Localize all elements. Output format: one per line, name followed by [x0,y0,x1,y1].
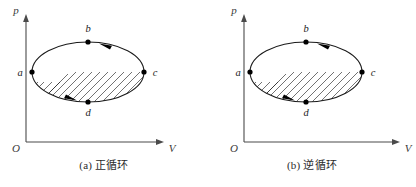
point-marker-c [359,69,364,74]
point-label-b: b [85,23,90,34]
panel-b-diagram: a b c d p V O [208,0,416,158]
point-marker-a [29,69,34,74]
point-label-b: b [303,23,308,34]
panel-reverse-cycle: a b c d p V O (b) 逆循环 [208,0,416,187]
point-marker-d [303,99,308,104]
point-marker-d [85,99,90,104]
point-label-d: d [85,107,91,118]
x-axis-label: V [405,142,413,154]
panel-a-caption: (a) 正循环 [0,156,208,172]
panel-a-diagram: a b c d p V O [0,0,208,158]
point-marker-c [141,69,146,74]
y-axis-label: p [230,4,237,16]
panel-forward-cycle: a b c d p V O (a) 正循环 [0,0,208,187]
figure-root: a b c d p V O (a) 正循环 [0,0,416,187]
cycle-ellipse-a [32,42,144,102]
cycle-ellipse-b [250,42,362,102]
axes-group-b [241,14,400,145]
panel-b-caption: (b) 逆循环 [208,156,416,172]
point-marker-a [247,69,252,74]
point-label-a: a [235,67,240,78]
x-axis-arrowhead [392,139,400,145]
point-label-d: d [303,107,309,118]
x-axis-arrowhead [156,139,164,145]
point-marker-b [303,39,308,44]
y-axis-arrowhead [241,14,247,22]
y-axis-label: p [12,4,19,16]
point-marker-b [85,39,90,44]
y-axis-arrowhead [23,14,29,22]
x-axis-label: V [169,142,177,154]
origin-label: O [230,142,238,154]
state-points-a [29,39,146,104]
point-label-c: c [153,67,158,78]
origin-label: O [12,142,20,154]
state-points-b [247,39,364,104]
point-label-c: c [371,67,376,78]
point-label-a: a [17,67,22,78]
